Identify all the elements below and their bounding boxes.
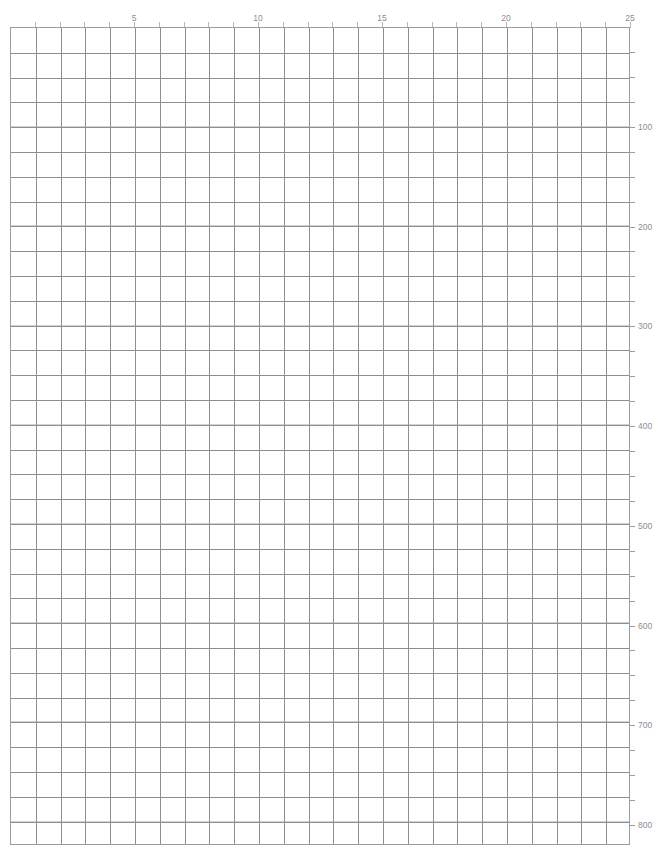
grid-line-horizontal: [11, 350, 629, 351]
grid-line-vertical: [259, 28, 260, 844]
y-axis-tick: [630, 276, 635, 277]
grid-line-accent-horizontal: [11, 325, 629, 326]
y-axis-tick: [630, 501, 635, 502]
grid-line-vertical: [85, 28, 86, 844]
y-axis-tick: [630, 526, 635, 527]
grid-line-horizontal: [11, 574, 629, 575]
grid-line-vertical: [557, 28, 558, 844]
grid-line-vertical: [482, 28, 483, 844]
y-axis-tick: [630, 301, 635, 302]
grid-line-accent-horizontal: [11, 821, 629, 822]
y-axis-tick: [630, 102, 635, 103]
grid-line-vertical: [457, 28, 458, 844]
grid-line-horizontal: [11, 722, 629, 723]
grid-line-horizontal: [11, 375, 629, 376]
y-axis-tick: [630, 700, 635, 701]
grid-line-horizontal: [11, 524, 629, 525]
grid-line-vertical: [185, 28, 186, 844]
y-axis-tick: [630, 376, 635, 377]
grid-line-vertical: [309, 28, 310, 844]
grid-line-vertical: [433, 28, 434, 844]
grid-line-horizontal: [11, 673, 629, 674]
y-axis-label: 100: [638, 122, 652, 132]
grid-line-vertical: [358, 28, 359, 844]
y-axis-tick: [630, 750, 635, 751]
y-axis-tick: [630, 177, 635, 178]
y-axis-tick: [630, 202, 635, 203]
grid-line-horizontal: [11, 152, 629, 153]
grid-line-vertical: [61, 28, 62, 844]
grid-vertical-lines: [11, 28, 629, 844]
grid-line-horizontal: [11, 127, 629, 128]
grid-line-horizontal: [11, 450, 629, 451]
grid-line-vertical: [36, 28, 37, 844]
grid-line-accent-horizontal: [11, 126, 629, 127]
y-axis-tick: [630, 401, 635, 402]
grid-line-horizontal: [11, 598, 629, 599]
grid-line-vertical: [284, 28, 285, 844]
y-axis-tick: [630, 725, 635, 726]
grid-line-horizontal: [11, 822, 629, 823]
y-axis-label: 400: [638, 421, 652, 431]
y-axis-tick: [630, 775, 635, 776]
y-axis-label: 800: [638, 820, 652, 830]
grid-line-horizontal: [11, 276, 629, 277]
grid-line-vertical: [581, 28, 582, 844]
y-axis-tick: [630, 650, 635, 651]
grid-line-accent-horizontal: [11, 622, 629, 623]
y-axis-label: 300: [638, 321, 652, 331]
y-axis-label: 600: [638, 621, 652, 631]
y-axis-tick: [630, 251, 635, 252]
y-axis-tick: [630, 152, 635, 153]
grid-line-horizontal: [11, 400, 629, 401]
grid-line-horizontal: [11, 102, 629, 103]
grid-line-horizontal: [11, 623, 629, 624]
y-axis-tick: [630, 601, 635, 602]
grid-line-vertical: [234, 28, 235, 844]
grid-line-horizontal: [11, 202, 629, 203]
grid-line-accent-horizontal: [11, 225, 629, 226]
grid-line-horizontal: [11, 78, 629, 79]
y-axis-label-strip: 100200300400500600700800: [630, 27, 662, 845]
grid-horizontal-lines: [11, 28, 629, 844]
y-axis-tick: [630, 326, 635, 327]
y-axis-tick: [630, 127, 635, 128]
grid-line-horizontal: [11, 747, 629, 748]
y-axis-label: 700: [638, 720, 652, 730]
y-axis-label: 500: [638, 521, 652, 531]
grid-line-horizontal: [11, 772, 629, 773]
grid-line-accent-horizontal: [11, 721, 629, 722]
grid-line-horizontal: [11, 499, 629, 500]
y-axis-tick: [630, 426, 635, 427]
y-axis-tick: [630, 451, 635, 452]
grid-line-horizontal: [11, 301, 629, 302]
grid-line-horizontal: [11, 226, 629, 227]
y-axis-tick: [630, 825, 635, 826]
grid-line-vertical: [383, 28, 384, 844]
grid-plot-area: [10, 27, 630, 845]
y-axis-tick: [630, 551, 635, 552]
grid-line-accent-horizontal: [11, 424, 629, 425]
grid-line-vertical: [135, 28, 136, 844]
grid-line-vertical: [606, 28, 607, 844]
grid-line-horizontal: [11, 53, 629, 54]
grid-sheet-page: — —— —— —— ——— — — —— 510152025 10020030…: [0, 0, 662, 859]
grid-line-vertical: [532, 28, 533, 844]
grid-line-vertical: [110, 28, 111, 844]
grid-line-horizontal: [11, 698, 629, 699]
y-axis-tick: [630, 576, 635, 577]
grid-line-horizontal: [11, 326, 629, 327]
clipped-header-label: — —— —— —— ——— — — ——: [0, 0, 662, 4]
grid-line-accent-horizontal: [11, 523, 629, 524]
grid-line-vertical: [507, 28, 508, 844]
grid-line-horizontal: [11, 425, 629, 426]
grid-line-horizontal: [11, 549, 629, 550]
y-axis-tick: [630, 626, 635, 627]
y-axis-tick: [630, 800, 635, 801]
grid-line-horizontal: [11, 251, 629, 252]
grid-line-horizontal: [11, 177, 629, 178]
grid-line-horizontal: [11, 648, 629, 649]
y-axis-tick: [630, 675, 635, 676]
grid-line-vertical: [333, 28, 334, 844]
grid-line-vertical: [160, 28, 161, 844]
